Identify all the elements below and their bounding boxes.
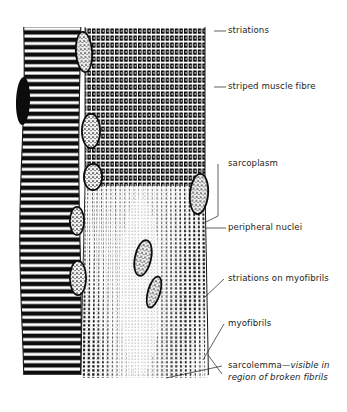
peripheral-nucleus	[81, 113, 101, 149]
label-sarcolemma: sarcolemma—visible in region of broken f…	[228, 360, 347, 383]
label-peripheral-nuclei: peripheral nuclei	[228, 222, 302, 234]
peripheral-nucleus	[83, 163, 103, 191]
striated-upper-block	[85, 27, 205, 186]
myofibril-lower-zone	[82, 186, 207, 378]
peripheral-nucleus	[69, 206, 85, 236]
label-striped-muscle-fibre: striped muscle fibre	[228, 81, 316, 93]
right-muscle-fibre	[81, 27, 209, 378]
label-sarcoplasm: sarcoplasm	[228, 158, 278, 170]
left-muscle-fibre	[20, 27, 81, 375]
label-sarcolemma-roman: sarcolemma	[228, 360, 282, 370]
peripheral-nucleus	[69, 260, 87, 296]
label-striations: striations	[228, 25, 269, 37]
muscle-fibre-diagram	[0, 0, 347, 412]
label-myofibrils: myofibrils	[228, 318, 271, 330]
label-striations-on-myofibrils: striations on myofibrils	[228, 273, 329, 285]
